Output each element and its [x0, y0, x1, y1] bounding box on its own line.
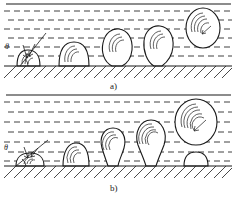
panel-label-b: b): [110, 183, 118, 193]
bubble-nucleation-figure: θ: [0, 0, 235, 199]
bubble-a-4: [144, 26, 173, 66]
panel-b-wall-hatching: [4, 166, 232, 178]
bubble-b-2: [63, 143, 89, 166]
theta-label-a: θ: [5, 42, 9, 51]
bubble-b-3: [101, 128, 125, 166]
panel-a-bubbles: [17, 8, 220, 66]
theta-label-b: θ: [4, 143, 8, 152]
panel-a: θ: [4, 4, 232, 91]
bubble-a-1: [17, 50, 40, 66]
panel-b-bubbles: [16, 99, 217, 166]
bubble-b-6-new-nucleus: [184, 152, 208, 166]
panel-b: θ: [4, 95, 232, 193]
panel-label-a: a): [110, 81, 117, 91]
bubble-a-2: [59, 42, 89, 66]
panel-a-wall-hatching: [4, 66, 232, 78]
diagram-svg: θ: [0, 0, 235, 199]
